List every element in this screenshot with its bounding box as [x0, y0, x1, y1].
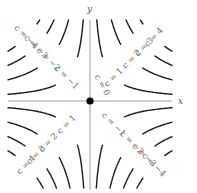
plot-canvas: c = 1c = 2c = 3c = 4c = 0c = −1c = −2c =…	[0, 0, 197, 193]
contour-line	[140, 20, 143, 24]
origin-point	[86, 97, 93, 104]
contour-line	[59, 20, 68, 44]
contour-line	[59, 158, 70, 188]
contour-line	[165, 47, 172, 52]
contour-line	[8, 68, 37, 80]
contour-plot: c = 1c = 2c = 3c = 4c = 0c = −1c = −2c =…	[0, 0, 197, 193]
contour-line	[143, 68, 172, 80]
contour-line	[8, 47, 15, 52]
contour-line	[37, 178, 43, 188]
contour-line	[143, 122, 172, 134]
contour-line	[126, 20, 133, 33]
contour-line	[96, 145, 102, 188]
contour-line	[8, 151, 15, 156]
contour-line	[78, 145, 84, 188]
contour-line	[8, 137, 25, 146]
contour-label: c = −4	[12, 23, 40, 51]
contour-line	[8, 56, 25, 65]
contour-label: c = −4	[140, 150, 168, 178]
contour-label: c = 4	[142, 25, 165, 48]
contour-line	[47, 20, 54, 33]
contour-line	[78, 20, 84, 57]
x-axis-label: x	[178, 96, 183, 106]
contour-line	[112, 20, 121, 44]
contour-line	[124, 169, 133, 188]
contour-line	[110, 158, 121, 188]
contour-line	[125, 108, 173, 117]
contour-line	[8, 85, 56, 94]
contour-line	[8, 122, 37, 134]
contour-line	[97, 20, 103, 57]
contour-line	[137, 178, 143, 188]
contour-line	[165, 151, 172, 156]
contour-line	[155, 56, 172, 65]
contour-label: c = 1	[55, 113, 78, 136]
contour-line	[155, 137, 172, 146]
y-axis-label: y	[86, 4, 93, 14]
contour-line	[47, 169, 56, 188]
contour-line	[37, 20, 40, 24]
contour-line	[125, 85, 173, 94]
contour-line	[8, 108, 56, 117]
